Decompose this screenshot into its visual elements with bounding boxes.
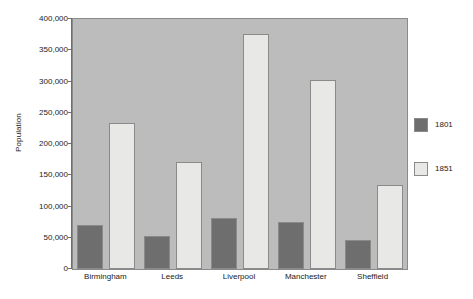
bar-group (207, 19, 274, 269)
bar-group (140, 19, 207, 269)
y-axis-tick-label: 350,000 (30, 45, 68, 54)
legend-label-1801: 1801 (435, 120, 453, 129)
y-axis-tick-labels: 050,000100,000150,000200,000250,000300,0… (30, 18, 68, 268)
y-axis-tick-mark (68, 18, 72, 19)
bar-sheffield-1801 (345, 240, 371, 269)
bar-manchester-1851 (310, 80, 336, 269)
x-axis-label-leeds: Leeds (161, 272, 183, 281)
y-axis-tick-label: 150,000 (30, 170, 68, 179)
x-axis-category-labels: BirminghamLeedsLiverpoolManchesterSheffi… (72, 272, 406, 288)
legend: 18011851 (414, 118, 472, 206)
x-axis-label-sheffield: Sheffield (357, 272, 388, 281)
y-axis-tick-mark (68, 174, 72, 175)
plot-area (72, 18, 408, 270)
bar-leeds-1851 (176, 162, 202, 270)
y-axis-title: Population (14, 93, 23, 173)
bar-manchester-1801 (278, 222, 304, 269)
bar-sheffield-1851 (377, 185, 403, 269)
bar-liverpool-1801 (211, 218, 237, 269)
bar-liverpool-1851 (243, 34, 269, 269)
y-axis-tick-mark (68, 49, 72, 50)
legend-swatch-1801 (414, 118, 428, 132)
x-axis-label-birmingham: Birmingham (84, 272, 127, 281)
x-axis-label-liverpool: Liverpool (223, 272, 255, 281)
y-axis-tick-mark (68, 268, 72, 269)
y-axis-tick-label: 200,000 (30, 139, 68, 148)
bar-group (73, 19, 140, 269)
y-axis-tick-label: 50,000 (30, 232, 68, 241)
y-axis-tick-label: 300,000 (30, 76, 68, 85)
y-axis-tick-mark (68, 206, 72, 207)
legend-entry-1801[interactable]: 1801 (414, 118, 472, 134)
legend-label-1851: 1851 (435, 164, 453, 173)
legend-entry-1851[interactable]: 1851 (414, 162, 472, 178)
y-axis-tick-mark (68, 81, 72, 82)
y-axis-tick-mark (68, 237, 72, 238)
y-axis-tick-mark (68, 143, 72, 144)
bar-group (340, 19, 407, 269)
y-axis-tick-label: 100,000 (30, 201, 68, 210)
legend-swatch-1851 (414, 162, 428, 176)
y-axis-tick-label: 250,000 (30, 107, 68, 116)
bar-chart: Population 050,000100,000150,000200,0002… (0, 0, 473, 299)
bar-leeds-1801 (144, 236, 170, 269)
y-axis-tick-label: 0 (30, 264, 68, 273)
bar-birmingham-1801 (77, 225, 103, 269)
x-axis-label-manchester: Manchester (285, 272, 327, 281)
y-axis-tick-mark (68, 112, 72, 113)
bar-birmingham-1851 (109, 123, 135, 269)
y-axis-tick-label: 400,000 (30, 14, 68, 23)
bar-group (273, 19, 340, 269)
